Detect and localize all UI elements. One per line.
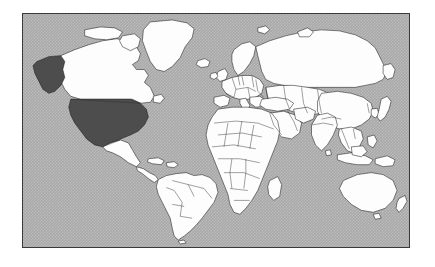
- landmass-tasmania[interactable]: [373, 213, 381, 219]
- page-title: World Map: [0, 21, 1, 22]
- landmass-scandinavia[interactable]: [232, 42, 256, 76]
- landmass-borneo[interactable]: [351, 146, 367, 157]
- landmass-africa[interactable]: [206, 107, 280, 214]
- world-map-svg[interactable]: [23, 14, 409, 247]
- highlighted-country-alaska[interactable]: [33, 56, 65, 94]
- world-map-frame[interactable]: [22, 13, 410, 248]
- landmass-iberia[interactable]: [214, 95, 230, 107]
- landmass-madagascar[interactable]: [268, 177, 282, 201]
- landmass-iceland[interactable]: [196, 59, 210, 68]
- landmass-australia[interactable]: [339, 173, 397, 213]
- landmass-greenland[interactable]: [142, 20, 194, 72]
- landmass-russia[interactable]: [256, 30, 387, 88]
- landmass-philippines[interactable]: [367, 135, 377, 148]
- landmass-mexico[interactable]: [103, 140, 141, 167]
- landmass-sri-lanka[interactable]: [325, 150, 331, 156]
- landmass-svalbard[interactable]: [258, 26, 270, 34]
- landmass-cuba[interactable]: [147, 158, 164, 165]
- landmass-canadian-arctic-islands[interactable]: [85, 27, 123, 40]
- landmass-new-zealand[interactable]: [396, 195, 407, 212]
- page-root: World Map World map with the United Stat…: [0, 0, 435, 267]
- landmass-south-america[interactable]: [156, 173, 218, 240]
- landmass-canada[interactable]: [57, 39, 154, 103]
- landmass-japan[interactable]: [377, 96, 391, 121]
- landmass-newfoundland[interactable]: [153, 94, 164, 103]
- landmass-papua-new-guinea[interactable]: [375, 156, 395, 167]
- map-description: World map with the United States highlig…: [0, 16, 1, 17]
- landmass-india[interactable]: [312, 113, 338, 151]
- landmass-caribbean-islands[interactable]: [166, 162, 178, 168]
- landmass-kamchatka[interactable]: [383, 64, 395, 80]
- landmass-western-europe[interactable]: [222, 75, 264, 99]
- highlighted-country-united-states[interactable]: [69, 99, 149, 147]
- landmass-central-america[interactable]: [136, 167, 158, 183]
- landmass-tierra-del-fuego[interactable]: [178, 240, 186, 244]
